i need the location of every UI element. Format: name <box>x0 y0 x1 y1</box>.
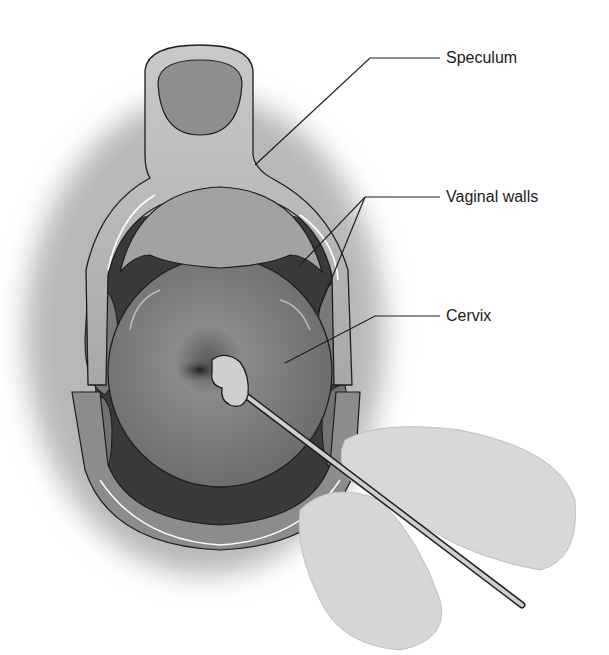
illustration <box>0 0 609 655</box>
label-cervix: Cervix <box>446 308 491 324</box>
diagram: Speculum Vaginal walls Cervix <box>0 0 609 655</box>
label-speculum: Speculum <box>446 50 517 66</box>
label-vaginal-walls: Vaginal walls <box>446 189 538 205</box>
